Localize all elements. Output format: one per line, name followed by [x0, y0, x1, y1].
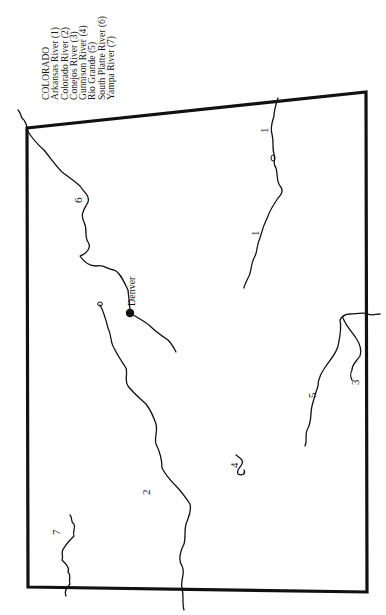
- river-arkansas: [244, 98, 282, 288]
- label-arkansas-b: 1: [249, 231, 261, 237]
- river-rio-grande: [305, 313, 380, 446]
- river-colorado: [100, 305, 191, 610]
- denver-label: Denver: [126, 276, 137, 306]
- state-border: [27, 92, 367, 592]
- label-colorado: 2: [140, 490, 152, 496]
- label-gunnison: 4: [228, 462, 240, 468]
- denver-marker: [126, 309, 134, 317]
- river-yampa: [62, 515, 75, 596]
- label-rio-grande: 5: [306, 392, 318, 398]
- river-south-platte: [18, 110, 176, 352]
- legend-item-yampa: Yampa River (7): [106, 16, 115, 100]
- label-arkansas-a: 1: [258, 128, 270, 134]
- label-yampa: 7: [50, 529, 62, 535]
- label-south-platte: 6: [72, 197, 84, 203]
- label-conejos: 3: [349, 379, 361, 385]
- river-conejos: [343, 318, 361, 380]
- map-legend: COLORADO Arkansas River (1) Colorado Riv…: [41, 16, 115, 100]
